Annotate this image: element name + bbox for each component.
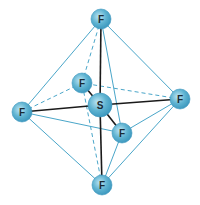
solid-edge (102, 99, 180, 185)
atom-f-right: F (170, 89, 190, 109)
atom-label: S (97, 100, 104, 111)
atom-f-bottom: F (92, 175, 112, 195)
atom-label: F (99, 180, 105, 191)
atom-f-front: F (112, 123, 132, 143)
atom-label: F (98, 14, 104, 25)
atom-label: F (79, 78, 85, 89)
atom-f-top: F (91, 9, 111, 29)
sf6-octahedron: FFFFFSF (0, 0, 200, 205)
atom-label: F (119, 128, 125, 139)
atom-f-back: F (72, 73, 92, 93)
atom-f-left: F (12, 102, 32, 122)
solid-edge (22, 19, 101, 112)
atom-s: S (88, 93, 112, 117)
s-f-bond (100, 19, 101, 105)
atom-label: F (19, 107, 25, 118)
atom-label: F (177, 94, 183, 105)
solid-edge (101, 19, 180, 99)
molecule-diagram: FFFFFSF (0, 0, 200, 205)
